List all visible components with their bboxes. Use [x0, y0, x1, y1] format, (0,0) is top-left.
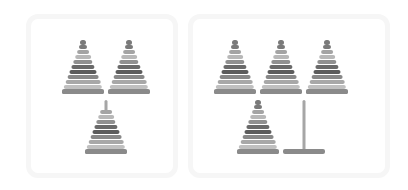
ring: [275, 50, 287, 54]
tower-base: [237, 149, 279, 154]
hanoi-tower: [236, 98, 280, 154]
tower-base: [85, 149, 127, 154]
ring: [218, 80, 253, 84]
ring: [220, 75, 251, 79]
tower-base: [214, 89, 256, 94]
ring: [119, 60, 138, 64]
ring: [229, 50, 241, 54]
peg-base: [283, 149, 325, 154]
peg-icon: [303, 100, 306, 152]
ring: [277, 45, 285, 49]
ring: [117, 65, 140, 69]
ring: [271, 60, 290, 64]
ring: [96, 120, 115, 124]
ring: [116, 70, 143, 74]
tower-base: [62, 89, 104, 94]
ring: [312, 75, 343, 79]
ring: [68, 75, 99, 79]
ring: [266, 75, 297, 79]
ring: [321, 50, 333, 54]
ring: [250, 115, 266, 119]
ring: [323, 45, 331, 49]
hanoi-tower: [282, 98, 326, 154]
ring: [245, 130, 272, 134]
ring: [75, 55, 91, 59]
ring: [100, 110, 112, 114]
ring: [317, 60, 336, 64]
ring: [222, 70, 249, 74]
ring: [98, 115, 114, 119]
ring: [269, 65, 292, 69]
ring: [314, 70, 341, 74]
ring: [123, 50, 135, 54]
ring: [89, 140, 124, 144]
ring: [254, 105, 262, 109]
ring: [227, 55, 243, 59]
ring: [246, 125, 269, 129]
ring: [114, 75, 145, 79]
tower-base: [260, 89, 302, 94]
hanoi-tower: [84, 98, 128, 154]
ring: [125, 45, 133, 49]
ring: [273, 55, 289, 59]
ring: [223, 65, 246, 69]
ring: [319, 55, 335, 59]
hanoi-tower: [61, 38, 105, 94]
ring: [310, 80, 345, 84]
ring: [73, 60, 92, 64]
ring: [121, 55, 137, 59]
ring: [252, 110, 264, 114]
ring: [315, 65, 338, 69]
ring: [66, 80, 101, 84]
hanoi-tower: [259, 38, 303, 94]
hanoi-tower: [107, 38, 151, 94]
ring: [241, 140, 276, 144]
ring: [248, 120, 267, 124]
ring: [268, 70, 295, 74]
ring: [71, 65, 94, 69]
ring: [231, 45, 239, 49]
ring: [77, 50, 89, 54]
tower-base: [108, 89, 150, 94]
ring: [70, 70, 97, 74]
ring: [112, 80, 147, 84]
ring: [225, 60, 244, 64]
hanoi-tower: [305, 38, 349, 94]
ring: [94, 125, 117, 129]
tower-base: [306, 89, 348, 94]
ring: [91, 135, 122, 139]
ring: [264, 80, 299, 84]
hanoi-tower: [213, 38, 257, 94]
ring: [243, 135, 274, 139]
ring: [93, 130, 120, 134]
ring: [79, 45, 87, 49]
